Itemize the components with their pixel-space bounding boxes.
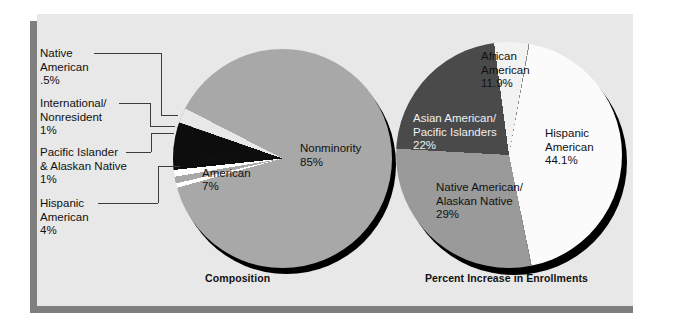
- label-pacific-islander-line2: & Alaskan Native: [40, 160, 127, 174]
- label-international-nonresident-line1: International/: [40, 97, 107, 111]
- pie-label-african-right-line1: African: [481, 50, 530, 64]
- leader-hispanic-horizontal: [98, 203, 158, 204]
- leader-pacific-islander-vertical: [151, 133, 152, 152]
- caption-percent-increase-in-enrollments: Percent Increase in Enrollments: [425, 272, 588, 284]
- pie-label-hispanic-right-line2: American: [545, 141, 594, 155]
- leader-native-american-vertical: [161, 53, 162, 115]
- label-international-nonresident-line2: Nonresident: [40, 111, 107, 125]
- leader-international-horizontal: [119, 103, 150, 104]
- pie-label-african-right-value: 11.9%: [481, 77, 530, 91]
- pie-label-nonminority-name: Nonminority: [300, 142, 361, 156]
- pie-label-hispanic-right-value: 44.1%: [545, 154, 594, 168]
- pie-label-asian-line1: Asian American/: [413, 112, 497, 126]
- label-pacific-islander-value: 1%: [40, 173, 127, 187]
- pie-label-african-american-line1: African: [202, 153, 251, 167]
- figure-panel: Nonminority 85% African American 7% Nati…: [37, 14, 633, 306]
- leader-international-vertical: [150, 103, 151, 126]
- pie-label-native-american-alaskan-native: Native American/ Alaskan Native 29%: [436, 181, 523, 222]
- pie-label-nonminority: Nonminority 85%: [300, 142, 361, 169]
- pie-label-native-alaskan-line1: Native American/: [436, 181, 523, 195]
- pie-label-asian-value: 22%: [413, 139, 497, 153]
- label-native-american-value: .5%: [40, 74, 89, 88]
- leader-pacific-islander-tip: [151, 133, 174, 134]
- pie-label-asian-line2: Pacific Islanders: [413, 126, 497, 140]
- pie-chart-percent-increase: Hispanic American 44.1% Native American/…: [395, 42, 635, 282]
- pie-label-hispanic-right-line1: Hispanic: [545, 127, 594, 141]
- label-international-nonresident: International/ Nonresident 1%: [40, 97, 107, 138]
- leader-native-american-tip: [161, 115, 178, 116]
- pie-label-african-american-value: 7%: [202, 180, 251, 194]
- pie-chart-composition: Nonminority 85% African American 7%: [172, 49, 402, 279]
- leader-native-american-horizontal: [94, 53, 161, 54]
- pie-label-african-american: African American 7%: [202, 153, 251, 194]
- label-hispanic-american-value: 4%: [40, 224, 89, 238]
- label-pacific-islander-line1: Pacific Islander: [40, 146, 127, 160]
- pie-label-african-american-line2: American: [202, 167, 251, 181]
- label-hispanic-american-left: Hispanic American 4%: [40, 197, 89, 238]
- pie-label-african-american-right: African American 11.9%: [481, 50, 530, 91]
- leader-pacific-islander-horizontal: [126, 152, 151, 153]
- label-hispanic-american-line1: Hispanic: [40, 197, 89, 211]
- leader-international-tip: [150, 126, 175, 127]
- pie-label-nonminority-value: 85%: [300, 156, 361, 170]
- pie-label-asian-american-pacific-islanders: Asian American/ Pacific Islanders 22%: [413, 112, 497, 153]
- pie-label-native-alaskan-line2: Alaskan Native: [436, 195, 523, 209]
- caption-composition: Composition: [205, 272, 270, 284]
- label-pacific-islander-alaskan-native: Pacific Islander & Alaskan Native 1%: [40, 146, 127, 187]
- label-native-american-line2: American: [40, 61, 89, 75]
- label-international-nonresident-value: 1%: [40, 124, 107, 138]
- pie-label-hispanic-american-right: Hispanic American 44.1%: [545, 127, 594, 168]
- pie-label-native-alaskan-value: 29%: [436, 208, 523, 222]
- label-native-american: Native American .5%: [40, 47, 89, 88]
- leader-hispanic-vertical: [158, 166, 159, 203]
- pie-label-african-right-line2: American: [481, 64, 530, 78]
- leader-hispanic-tip: [158, 166, 180, 167]
- label-hispanic-american-line2: American: [40, 211, 89, 225]
- label-native-american-line1: Native: [40, 47, 89, 61]
